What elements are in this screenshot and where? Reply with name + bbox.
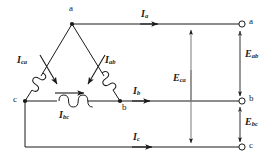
label-I-ab-sub: ab — [109, 58, 116, 65]
label-I-ca-sub: ca — [21, 58, 27, 65]
node-label-a: a — [69, 4, 73, 13]
label-I-bc-sub: bc — [63, 113, 69, 120]
terminal-label-a: a — [249, 17, 253, 26]
delta-side-ca — [25, 24, 72, 101]
label-E-ab-base: E — [245, 48, 252, 59]
node-label-b: b — [122, 103, 127, 112]
label-E-ca: Eca — [173, 73, 186, 84]
coil-bc — [59, 95, 93, 107]
arrow-I-ab — [88, 55, 105, 84]
label-E-ca-sub: ca — [180, 76, 186, 83]
label-E-ab-sub: ab — [252, 52, 259, 59]
terminal-a[interactable] — [239, 21, 245, 27]
terminal-label-b: b — [249, 94, 254, 103]
node-label-c: c — [13, 95, 17, 104]
terminal-b[interactable] — [239, 98, 245, 104]
label-I-c-sub: c — [137, 135, 140, 142]
label-I-b-sub: b — [137, 89, 140, 96]
delta-side-bc — [25, 95, 120, 107]
label-E-bc-base: E — [245, 116, 252, 127]
label-I-ca: Ica — [17, 55, 27, 66]
label-I-a-sub: a — [145, 12, 148, 19]
label-E-bc-sub: bc — [252, 120, 258, 127]
coil-ab — [98, 70, 117, 93]
label-I-c: Ic — [133, 132, 140, 143]
label-I-a: Ia — [141, 9, 148, 20]
terminal-label-c: c — [249, 141, 253, 150]
coil-ca — [28, 70, 47, 93]
label-I-ab: Iab — [105, 55, 115, 66]
terminal-c[interactable] — [239, 144, 245, 150]
label-E-ca-base: E — [173, 72, 180, 83]
label-E-ab: Eab — [245, 49, 258, 60]
circuit-diagram: a b c Ica Iab Ibc Ia Ib Ic Eab Ebc Eca a… — [0, 0, 274, 164]
label-E-bc: Ebc — [245, 117, 258, 128]
label-I-bc: Ibc — [59, 110, 69, 121]
label-I-b: Ib — [133, 86, 140, 97]
